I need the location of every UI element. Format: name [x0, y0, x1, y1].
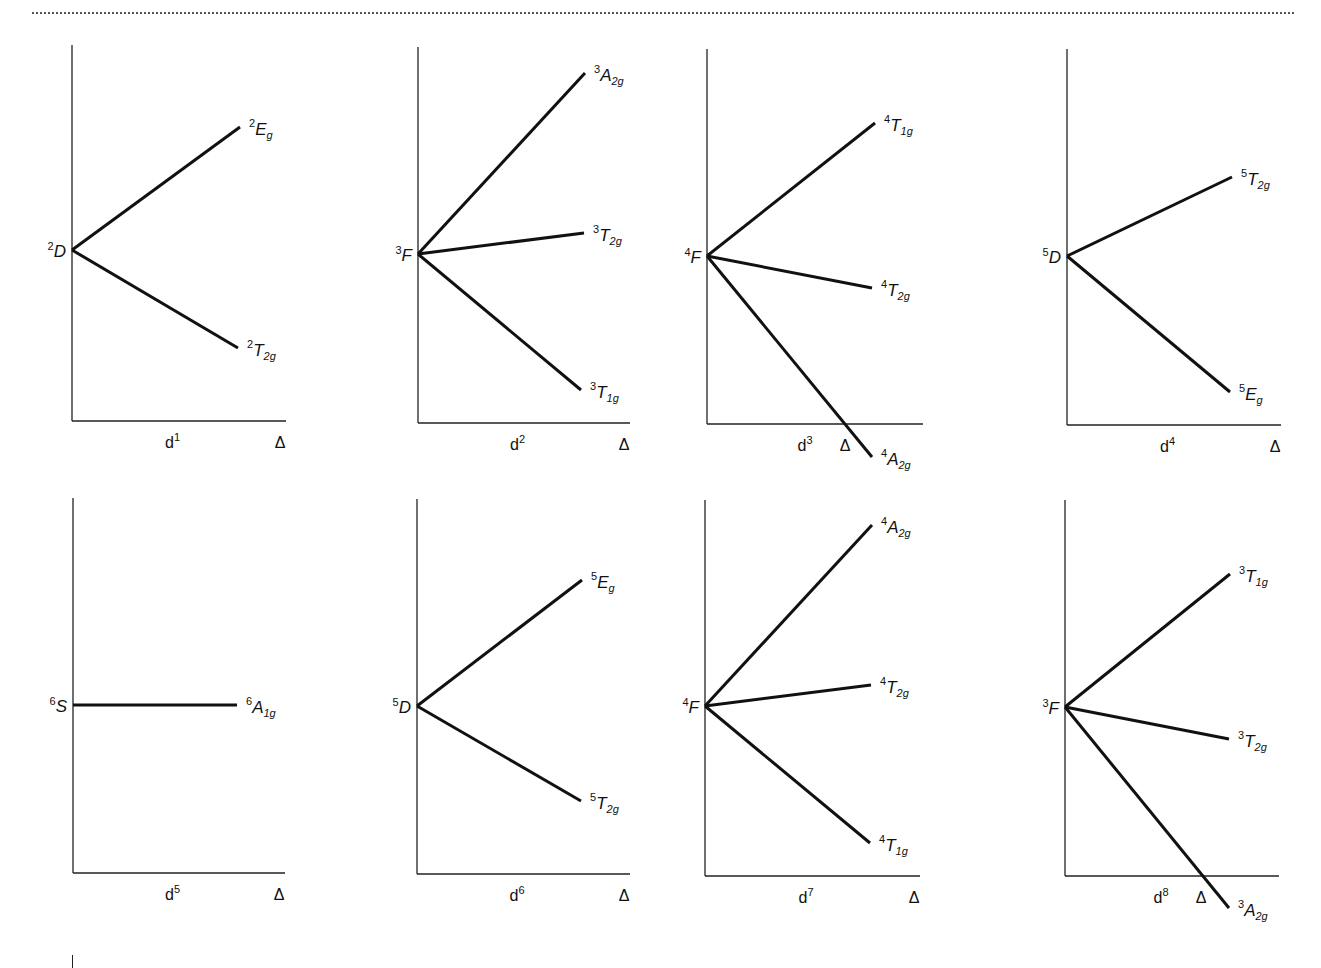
panel-d2: 3F3A2g3T2g3T1gd2Δ [395, 47, 630, 453]
term-line-3T1g [1065, 574, 1230, 707]
term-label-4A2g: 4A2g [881, 515, 912, 539]
delta-axis-label: Δ [619, 887, 630, 904]
delta-axis-label: Δ [1270, 438, 1281, 455]
term-label-3T1g: 3T1g [590, 380, 620, 404]
free-ion-term-label: 5D [393, 696, 411, 717]
panel-d4: 5D5T2g5Egd4Δ [1043, 49, 1281, 455]
term-line-2T2g [72, 250, 238, 348]
term-label-4T2g: 4T2g [881, 278, 911, 302]
term-line-5Eg [1067, 256, 1230, 392]
term-label-3T2g: 3T2g [593, 223, 623, 247]
term-label-3T2g: 3T2g [1238, 729, 1268, 753]
panel-d8: 3F3T1g3T2g3A2gd8Δ [1042, 500, 1279, 922]
term-label-5T2g: 5T2g [590, 791, 620, 815]
panel-d3: 4F4T1g4T2g4A2gd3Δ [684, 49, 923, 471]
term-line-5T2g [417, 706, 581, 801]
term-line-3T2g [418, 233, 584, 254]
term-label-4T1g: 4T1g [884, 113, 914, 137]
electron-config-label: d6 [510, 884, 525, 904]
delta-axis-label: Δ [1196, 889, 1207, 906]
correlation-diagrams: 2D2Eg2T2gd1Δ3F3A2g3T2g3T1gd2Δ4F4T1g4T2g4… [0, 0, 1321, 968]
term-line-2Eg [72, 127, 240, 250]
electron-config-label: d7 [799, 886, 814, 906]
term-line-4T2g [707, 256, 872, 288]
electron-config-label: d1 [165, 431, 180, 451]
electron-config-label: d4 [1160, 435, 1175, 455]
term-label-4A2g: 4A2g [881, 447, 912, 471]
term-label-2T2g: 2T2g [247, 338, 277, 362]
free-ion-term-label: 3F [1042, 697, 1060, 718]
term-line-3T2g [1065, 707, 1229, 739]
free-ion-term-label: 5D [1043, 246, 1061, 267]
delta-axis-label: Δ [909, 889, 920, 906]
term-label-5T2g: 5T2g [1241, 167, 1271, 191]
term-line-4A2g [705, 525, 872, 706]
panel-d7: 4F4A2g4T2g4T1gd7Δ [682, 500, 920, 906]
delta-axis-label: Δ [840, 437, 851, 454]
term-label-4T1g: 4T1g [879, 833, 909, 857]
delta-axis-label: Δ [275, 434, 286, 451]
free-ion-term-label: 2D [48, 240, 66, 261]
term-line-3A2g [418, 73, 585, 254]
electron-config-label: d5 [165, 883, 180, 903]
term-label-3A2g: 3A2g [1238, 898, 1269, 922]
electron-config-label: d8 [1153, 886, 1168, 906]
panel-d6: 5D5Eg5T2gd6Δ [393, 499, 630, 904]
term-line-4T2g [705, 685, 871, 706]
free-ion-term-label: 4F [682, 696, 700, 717]
panel-d1: 2D2Eg2T2gd1Δ [48, 45, 286, 451]
term-line-4A2g [707, 256, 872, 457]
term-line-3T1g [418, 254, 581, 390]
term-label-3T1g: 3T1g [1239, 564, 1269, 588]
term-line-4T1g [707, 123, 875, 256]
diagram-figure: 2D2Eg2T2gd1Δ3F3A2g3T2g3T1gd2Δ4F4T1g4T2g4… [0, 0, 1321, 968]
electron-config-label: d2 [510, 433, 525, 453]
delta-axis-label: Δ [274, 886, 285, 903]
term-label-4T2g: 4T2g [880, 675, 910, 699]
term-label-5Eg: 5Eg [591, 570, 615, 594]
term-label-5Eg: 5Eg [1239, 382, 1263, 406]
free-ion-term-label: 4F [684, 246, 702, 267]
panel-d5: 6S6A1gd5Δ [50, 498, 285, 903]
term-label-6A1g: 6A1g [246, 695, 277, 719]
free-ion-term-label: 3F [395, 244, 413, 265]
term-label-3A2g: 3A2g [594, 63, 625, 87]
free-ion-term-label: 6S [50, 695, 68, 716]
term-label-2Eg: 2Eg [249, 117, 273, 141]
term-line-5Eg [417, 580, 582, 706]
delta-axis-label: Δ [619, 436, 630, 453]
term-line-4T1g [705, 706, 870, 843]
term-line-5T2g [1067, 177, 1232, 256]
electron-config-label: d3 [797, 434, 812, 454]
page-edge-tick [72, 955, 73, 968]
term-line-3A2g [1065, 707, 1229, 908]
